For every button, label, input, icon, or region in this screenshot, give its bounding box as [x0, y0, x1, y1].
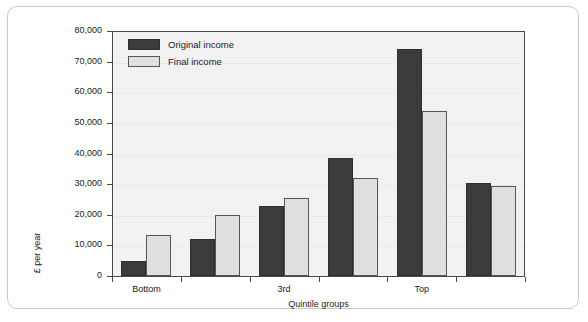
y-axis-tick-label-container: 80,000: [44, 26, 102, 35]
y-axis-tick-mark: [107, 123, 112, 124]
y-axis-tick-label: 80,000: [44, 26, 102, 35]
bar-original-income: [259, 206, 284, 276]
x-axis-tick-mark: [250, 277, 251, 282]
bar-final-income: [146, 235, 171, 276]
legend-swatch-original: [128, 39, 160, 50]
x-axis-tick-mark: [525, 277, 526, 282]
y-axis-tick-label: 70,000: [44, 57, 102, 66]
y-axis-tick-label: 0: [44, 271, 102, 280]
x-axis-tick-mark: [456, 277, 457, 282]
x-axis-group-label: 3rd: [278, 284, 291, 294]
y-axis-tick-mark: [107, 215, 112, 216]
x-axis-tick-mark: [112, 277, 113, 282]
bar-original-income: [328, 158, 353, 276]
legend-swatch-final: [128, 56, 160, 67]
y-axis-tick-mark: [107, 184, 112, 185]
y-axis-line: [112, 31, 113, 277]
y-axis-tick-mark: [107, 62, 112, 63]
y-axis-tick-label: 10,000: [44, 240, 102, 249]
y-axis-tick-label: 30,000: [44, 179, 102, 188]
gridline: [112, 93, 524, 94]
chart-figure-frame: 010,00020,00030,00040,00050,00060,00070,…: [7, 6, 579, 309]
x-axis-group-label: Top: [414, 284, 429, 294]
y-axis-title: £ per year: [32, 233, 42, 274]
legend-label: Final income: [168, 56, 222, 67]
y-axis-tick-mark: [107, 31, 112, 32]
bar-original-income: [397, 49, 422, 276]
bar-original-income: [466, 183, 491, 276]
bar-original-income: [190, 239, 215, 276]
gridline: [112, 155, 524, 156]
bar-original-income: [121, 261, 146, 276]
bar-final-income: [491, 186, 516, 276]
bar-final-income: [284, 198, 309, 276]
x-axis-tick-mark: [319, 277, 320, 282]
legend-item: Final income: [128, 53, 234, 70]
chart-legend: Original incomeFinal income: [128, 36, 234, 70]
y-axis-tick-label-container: 20,000: [44, 210, 102, 219]
y-axis-tick-label-container: 60,000: [44, 87, 102, 96]
y-axis-tick-mark: [107, 92, 112, 93]
bar-final-income: [215, 215, 240, 276]
gridline: [112, 216, 524, 217]
bar-final-income: [353, 178, 378, 276]
y-axis-tick-label: 60,000: [44, 87, 102, 96]
gridline: [112, 246, 524, 247]
gridline: [112, 185, 524, 186]
y-axis-title-container: £ per year: [26, 112, 86, 172]
y-axis-tick-label-container: 0: [44, 271, 102, 280]
y-axis-tick-mark: [107, 245, 112, 246]
x-axis-title: Quintile groups: [112, 299, 525, 309]
x-axis-group-label: Bottom: [132, 284, 161, 294]
y-axis-tick-label-container: 70,000: [44, 57, 102, 66]
gridline: [112, 124, 524, 125]
legend-item: Original income: [128, 36, 234, 53]
y-axis-tick-label-container: 10,000: [44, 240, 102, 249]
bar-final-income: [422, 111, 447, 276]
legend-label: Original income: [168, 39, 234, 50]
y-axis-tick-mark: [107, 154, 112, 155]
y-axis-tick-label: 20,000: [44, 210, 102, 219]
y-axis-tick-label-container: 30,000: [44, 179, 102, 188]
x-axis-tick-mark: [387, 277, 388, 282]
x-axis-tick-mark: [181, 277, 182, 282]
